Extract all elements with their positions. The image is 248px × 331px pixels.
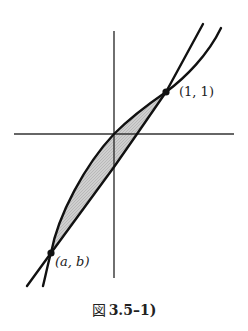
point-label-1-1: (1, 1) bbox=[179, 84, 214, 99]
diagram-figure: (1, 1) (a, b) 図3.5–1) bbox=[0, 0, 248, 331]
point-a-b-marker bbox=[47, 249, 54, 256]
caption-number: 3.5–1) bbox=[109, 302, 157, 318]
caption-prefix: 図 bbox=[92, 302, 106, 318]
figure-caption: 図3.5–1) bbox=[0, 299, 248, 319]
point-label-a-b: (a, b) bbox=[55, 254, 89, 269]
curve bbox=[43, 28, 221, 286]
point-1-1-marker bbox=[162, 88, 169, 95]
